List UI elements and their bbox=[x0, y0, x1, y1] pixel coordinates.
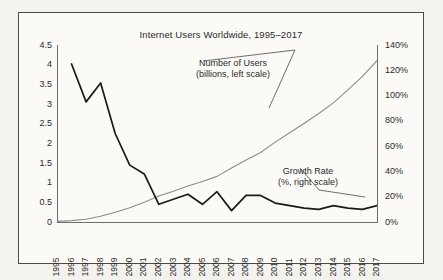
left-axis-tick: 2.5 bbox=[18, 119, 52, 128]
right-axis-tick: 80% bbox=[385, 116, 425, 125]
growth-annotation: Growth Rate (%, right scale) bbox=[278, 166, 338, 189]
left-axis-tick: 1 bbox=[18, 178, 52, 187]
chart-title: Internet Users Worldwide, 1995–2017 bbox=[19, 29, 423, 40]
x-axis-tick: 2007 bbox=[226, 257, 235, 276]
right-axis-tick: 0% bbox=[385, 218, 425, 227]
left-axis-tick: 0.5 bbox=[18, 198, 52, 207]
right-axis-tick: 60% bbox=[385, 142, 425, 151]
right-axis-tick: 100% bbox=[385, 91, 425, 100]
growth-annotation-line2: (%, right scale) bbox=[278, 177, 338, 188]
series-line-number-of-users bbox=[57, 61, 377, 222]
left-axis-tick: 4 bbox=[18, 60, 52, 69]
x-axis-tick: 2008 bbox=[241, 257, 250, 276]
users-annotation-line2: (billions, left scale) bbox=[196, 69, 270, 80]
x-axis-tick: 1996 bbox=[66, 257, 75, 276]
right-axis-line bbox=[377, 45, 378, 223]
x-axis-tick: 2005 bbox=[197, 257, 206, 276]
users-annotation-line1: Number of Users bbox=[196, 58, 270, 69]
x-axis-tick: 2009 bbox=[255, 257, 264, 276]
right-axis-tick: 140% bbox=[385, 41, 425, 50]
x-axis-tick: 2001 bbox=[139, 257, 148, 276]
x-axis-tick: 2010 bbox=[270, 257, 279, 276]
right-axis-tick: 40% bbox=[385, 167, 425, 176]
left-axis-tick: 2 bbox=[18, 139, 52, 148]
right-axis-tick-labels: 0%20%40%60%80%100%120%140% bbox=[385, 0, 429, 280]
right-axis-tick: 120% bbox=[385, 66, 425, 75]
x-axis-tick-labels: 1995199619971998199920002001200220032004… bbox=[57, 226, 378, 276]
left-axis-tick: 3.5 bbox=[18, 80, 52, 89]
left-axis-tick: 0 bbox=[18, 218, 52, 227]
left-axis-tick-labels: 00.511.522.533.544.5 bbox=[16, 0, 52, 280]
x-axis-tick: 2013 bbox=[314, 257, 323, 276]
x-axis-tick: 2006 bbox=[212, 257, 221, 276]
x-axis-tick: 2012 bbox=[299, 257, 308, 276]
x-axis-tick: 2011 bbox=[284, 258, 293, 276]
x-axis-tick: 1997 bbox=[81, 257, 90, 276]
left-axis-tick: 1.5 bbox=[18, 159, 52, 168]
x-axis-tick: 2003 bbox=[168, 257, 177, 276]
x-axis-tick: 2000 bbox=[124, 257, 133, 276]
series-line-growth-rate bbox=[72, 64, 377, 211]
x-axis-tick: 2014 bbox=[328, 257, 337, 276]
x-axis-tick: 1999 bbox=[110, 257, 119, 276]
x-axis-tick: 2015 bbox=[343, 257, 352, 276]
right-axis-tick: 20% bbox=[385, 192, 425, 201]
left-axis-tick: 4.5 bbox=[18, 41, 52, 50]
left-axis-tick: 3 bbox=[18, 100, 52, 109]
x-axis-tick: 2002 bbox=[154, 257, 163, 276]
x-axis-tick: 2004 bbox=[183, 257, 192, 276]
growth-annotation-line1: Growth Rate bbox=[278, 166, 338, 177]
x-axis-tick: 2016 bbox=[357, 257, 366, 276]
x-axis-tick: 2017 bbox=[372, 257, 381, 276]
x-axis-line bbox=[57, 222, 378, 223]
x-axis-tick: 1998 bbox=[95, 257, 104, 276]
users-annotation: Number of Users (billions, left scale) bbox=[196, 58, 270, 81]
x-axis-tick: 1995 bbox=[52, 257, 61, 276]
